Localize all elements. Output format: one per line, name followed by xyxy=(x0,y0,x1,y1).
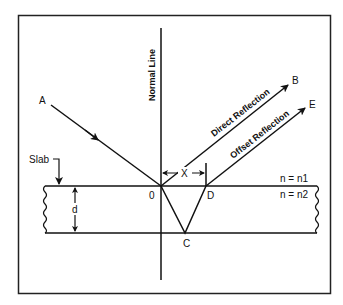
medium-top-label: n = n1 xyxy=(280,173,309,184)
point-c-label: C xyxy=(183,238,190,249)
normal-line-label: Normal Line xyxy=(147,49,157,101)
offset-label: X xyxy=(181,168,188,179)
slab-label: Slab xyxy=(29,154,49,165)
refracted-path xyxy=(161,186,206,233)
point-b-label: B xyxy=(292,75,299,86)
medium-slab-label: n = n2 xyxy=(280,189,309,200)
thickness-label: d xyxy=(72,204,78,215)
incident-arrow xyxy=(85,130,98,140)
point-o-label: 0 xyxy=(149,190,155,201)
point-d-label: D xyxy=(207,190,214,201)
incident-ray xyxy=(51,105,161,186)
slab-pointer xyxy=(53,159,59,184)
slab-left-break xyxy=(44,186,47,233)
slab-right-break xyxy=(316,186,319,233)
diagram-frame xyxy=(19,16,331,294)
point-e-label: E xyxy=(309,99,316,110)
reflection-diagram: Normal Line X d Slab A B E 0 D C Direct … xyxy=(0,0,343,305)
point-a-label: A xyxy=(39,95,46,106)
